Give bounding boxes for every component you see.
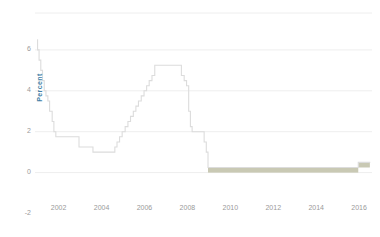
x-axis-tick: 2002: [42, 204, 76, 211]
chart-container: Percent 6420-2 2002200420062008201020122…: [0, 0, 380, 237]
x-axis-tick: 2016: [342, 204, 376, 211]
federal-funds-rate-chart: [0, 0, 380, 237]
x-axis-tick: 2010: [213, 204, 247, 211]
y-axis-label: Percent: [36, 58, 43, 118]
rate-step-line: [37, 40, 370, 168]
y-axis-tick: 4: [13, 86, 31, 93]
x-axis-tick: 2012: [256, 204, 290, 211]
gridlines: [35, 13, 372, 173]
y-axis-tick: -2: [13, 209, 31, 216]
target-range-segment: [208, 167, 358, 172]
target-range-segment: [358, 162, 370, 167]
y-axis-tick: 0: [13, 168, 31, 175]
x-axis-tick: 2004: [85, 204, 119, 211]
y-axis-tick: 6: [13, 45, 31, 52]
y-axis-tick: 2: [13, 127, 31, 134]
x-axis-tick: 2014: [299, 204, 333, 211]
x-axis-tick: 2006: [127, 204, 161, 211]
x-axis-tick: 2008: [170, 204, 204, 211]
